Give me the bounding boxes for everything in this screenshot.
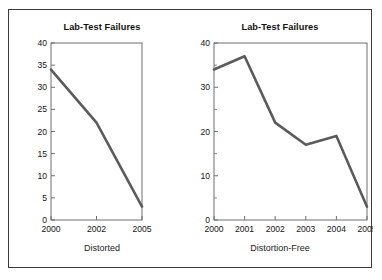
plot-area-distorted: 0510152025303540200020022005	[9, 10, 191, 269]
y-tick-label: 30	[37, 82, 47, 92]
axis-caption-distortion-free: Distortion-Free	[189, 243, 371, 253]
y-tick-label: 10	[200, 171, 210, 181]
x-tick-label: 2004	[327, 224, 346, 234]
y-tick-label: 20	[200, 127, 210, 137]
y-tick-label: 40	[200, 38, 210, 48]
chart-panel-distorted: Lab-Test Failures 0510152025303540200020…	[9, 10, 191, 267]
chart-panel-distortion-free: Lab-Test Failures 0102030402000200120022…	[191, 10, 373, 267]
x-tick-label: 2002	[87, 224, 106, 234]
figure-border: Lab-Test Failures 0510152025303540200020…	[8, 9, 372, 268]
x-tick-label: 2000	[204, 224, 223, 234]
x-tick-label: 2005	[357, 224, 373, 234]
y-tick-label: 35	[37, 60, 47, 70]
x-tick-label: 2002	[266, 224, 285, 234]
x-tick-label: 2005	[132, 224, 151, 234]
y-tick-label: 10	[37, 171, 47, 181]
y-tick-label: 5	[42, 193, 47, 203]
plot-area-distortion-free: 010203040200020012002200320042005	[191, 10, 373, 269]
y-tick-label: 15	[37, 149, 47, 159]
data-series-line	[51, 70, 142, 207]
x-tick-label: 2003	[296, 224, 315, 234]
x-tick-label: 2001	[235, 224, 254, 234]
y-tick-label: 20	[37, 127, 47, 137]
axis-caption-distorted: Distorted	[11, 243, 193, 253]
y-tick-label: 40	[37, 38, 47, 48]
y-tick-label: 25	[37, 104, 47, 114]
data-series-line	[214, 56, 367, 206]
x-tick-label: 2000	[41, 224, 60, 234]
y-tick-label: 30	[200, 82, 210, 92]
